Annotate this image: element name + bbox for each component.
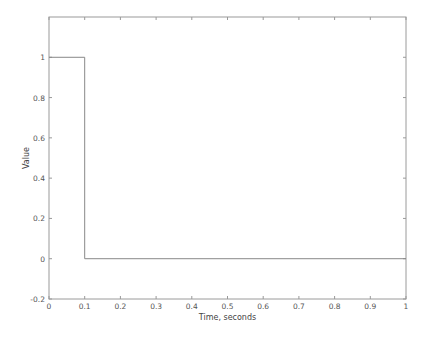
y-tick-label: 0.4 xyxy=(33,174,45,183)
y-tick-label: 0.6 xyxy=(33,134,45,143)
x-tick-label: 0.1 xyxy=(79,302,91,311)
x-tick-label: 0.2 xyxy=(114,302,126,311)
plot-frame xyxy=(49,17,406,299)
x-tick-label: 0.4 xyxy=(186,302,198,311)
x-axis-ticks: 00.10.20.30.40.50.60.70.80.91 xyxy=(47,17,409,311)
y-tick-label: 0 xyxy=(40,255,45,264)
chart-canvas: 00.10.20.30.40.50.60.70.80.91 -0.200.20.… xyxy=(0,0,434,338)
x-tick-label: 0.8 xyxy=(329,302,341,311)
data-series xyxy=(49,57,406,258)
y-tick-label: 0.8 xyxy=(33,94,45,103)
y-tick-label: 1 xyxy=(40,53,45,62)
x-tick-label: 0.7 xyxy=(293,302,305,311)
x-axis-label: Time, seconds xyxy=(198,313,256,322)
x-tick-label: 0 xyxy=(47,302,52,311)
x-tick-label: 0.6 xyxy=(257,302,269,311)
x-tick-label: 0.5 xyxy=(222,302,234,311)
x-tick-label: 0.9 xyxy=(364,302,376,311)
y-axis-label: Value xyxy=(22,147,31,169)
x-tick-label: 0.3 xyxy=(150,302,162,311)
y-tick-label: -0.2 xyxy=(30,295,45,304)
x-tick-label: 1 xyxy=(404,302,409,311)
y-tick-label: 0.2 xyxy=(33,214,45,223)
series-line-pulse xyxy=(49,57,406,258)
y-axis-ticks: -0.200.20.40.60.81 xyxy=(30,53,406,304)
